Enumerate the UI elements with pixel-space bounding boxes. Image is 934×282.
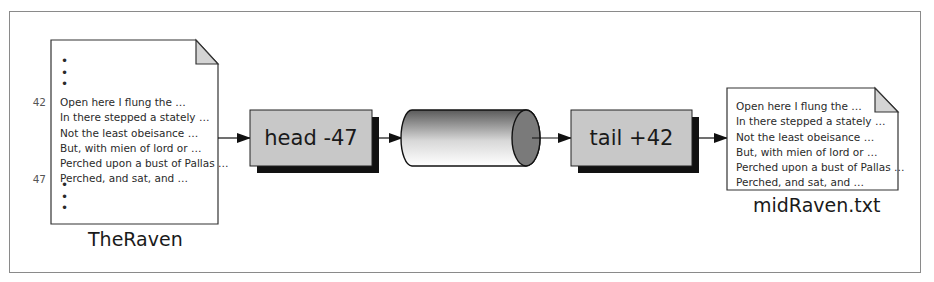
output-file-lines: Open here I flung the … In there stepped… — [736, 99, 904, 191]
source-line: Open here I flung the … — [60, 95, 228, 110]
ellipsis-dot: • — [61, 79, 68, 91]
tail-command-label: tail +42 — [571, 110, 692, 166]
source-line: Perched, and sat, and … — [60, 171, 228, 186]
output-line: But, with mien of lord or … — [736, 145, 904, 160]
source-file-caption: TheRaven — [88, 228, 183, 250]
output-file-caption: midRaven.txt — [753, 194, 880, 216]
output-line: Not the least obeisance … — [736, 130, 904, 145]
pipe-cylinder-icon — [401, 110, 540, 166]
ellipsis-bottom: • • • — [61, 180, 68, 215]
line-number-last: 47 — [26, 173, 46, 185]
ellipsis-top: • • • — [61, 56, 68, 91]
ellipsis-dot: • — [61, 203, 68, 215]
source-line: Not the least obeisance … — [60, 126, 228, 141]
source-line: But, with mien of lord or … — [60, 141, 228, 156]
line-number-first: 42 — [26, 96, 46, 108]
source-line: In there stepped a stately … — [60, 110, 228, 125]
source-file-lines: Open here I flung the … In there stepped… — [60, 95, 228, 187]
output-line: Perched upon a bust of Pallas … — [736, 160, 904, 175]
head-command-label: head -47 — [250, 110, 372, 166]
output-line: Open here I flung the … — [736, 99, 904, 114]
output-line: Perched, and sat, and … — [736, 175, 904, 190]
source-line: Perched upon a bust of Pallas … — [60, 156, 228, 171]
output-line: In there stepped a stately … — [736, 114, 904, 129]
